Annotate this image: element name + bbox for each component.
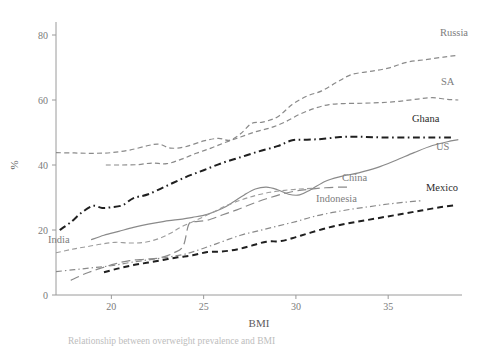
y-axis-title: % bbox=[8, 160, 20, 169]
series-line-russia bbox=[56, 55, 458, 153]
x-axis-title: BMI bbox=[249, 317, 270, 329]
y-tick-label: 20 bbox=[38, 225, 48, 236]
chart-container: 02040608020253035 RussiaSAGhanaUSChinaIn… bbox=[0, 0, 484, 348]
series-labels: RussiaSAGhanaUSChinaIndiaIndonesiaMexico bbox=[48, 27, 468, 245]
series-label-indonesia: Indonesia bbox=[316, 193, 357, 204]
x-tick-label: 35 bbox=[383, 301, 393, 312]
series-label-us: US bbox=[436, 141, 450, 152]
y-tick-label: 40 bbox=[38, 160, 48, 171]
y-tick-label: 0 bbox=[43, 290, 48, 301]
line-chart: 02040608020253035 RussiaSAGhanaUSChinaIn… bbox=[0, 0, 484, 348]
series-lines bbox=[56, 55, 458, 280]
series-label-china: China bbox=[342, 172, 367, 183]
series-label-mexico: Mexico bbox=[426, 182, 458, 193]
series-line-us bbox=[91, 140, 458, 240]
series-label-russia: Russia bbox=[440, 27, 468, 38]
y-tick-label: 80 bbox=[38, 30, 48, 41]
series-line-china bbox=[71, 187, 350, 280]
x-tick-label: 20 bbox=[106, 301, 116, 312]
series-label-india: India bbox=[48, 234, 70, 245]
y-tick-label: 60 bbox=[38, 95, 48, 106]
series-label-ghana: Ghana bbox=[412, 113, 440, 124]
x-tick-label: 25 bbox=[199, 301, 209, 312]
series-label-sa: SA bbox=[441, 76, 455, 87]
x-tick-label: 30 bbox=[291, 301, 301, 312]
figure-caption: Relationship between overweight prevalen… bbox=[68, 336, 275, 346]
figure-caption-clip: Relationship between overweight prevalen… bbox=[0, 336, 484, 348]
series-line-sa bbox=[106, 98, 458, 165]
series-line-mexico bbox=[104, 205, 455, 272]
series-line-indonesia bbox=[56, 201, 421, 272]
